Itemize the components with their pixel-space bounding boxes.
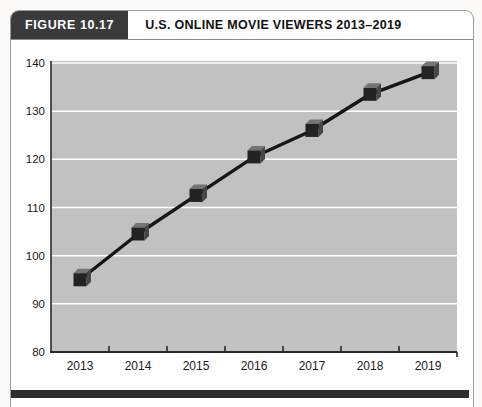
marker-cube-2016: [248, 150, 261, 163]
marker-cube-2014: [132, 227, 145, 240]
figure-title: U.S. ONLINE MOVIE VIEWERS 2013–2019: [128, 11, 401, 39]
x-tick-label-2019: 2019: [415, 359, 442, 373]
marker-cube-2018: [364, 88, 377, 101]
marker-cube-2019: [422, 66, 435, 79]
x-tick-label-2013: 2013: [67, 359, 94, 373]
y-tick-label-100: 100: [26, 250, 45, 262]
y-tick-label-120: 120: [26, 153, 45, 165]
y-tick-label-110: 110: [27, 202, 45, 214]
x-tick-label-2014: 2014: [125, 359, 152, 373]
x-tick-label-2017: 2017: [299, 359, 326, 373]
y-tick-label-90: 90: [32, 298, 45, 310]
x-tick-label-2018: 2018: [357, 359, 384, 373]
marker-cube-2015: [190, 189, 203, 202]
figure-bottom-rule: [11, 390, 469, 398]
figure-number-label: FIGURE 10.17: [11, 11, 128, 39]
plot-background: [51, 61, 457, 352]
figure-header: FIGURE 10.17 U.S. ONLINE MOVIE VIEWERS 2…: [11, 11, 473, 40]
figure-container: FIGURE 10.17 U.S. ONLINE MOVIE VIEWERS 2…: [10, 10, 474, 407]
x-tick-label-2015: 2015: [183, 359, 210, 373]
marker-cube-2017: [306, 124, 319, 137]
y-tick-label-140: 140: [26, 57, 45, 69]
x-tick-label-2016: 2016: [241, 359, 268, 373]
chart-area: 8090100110120130140201320142015201620172…: [11, 40, 475, 391]
y-tick-label-130: 130: [26, 105, 45, 117]
marker-cube-2013: [74, 273, 87, 286]
line-chart: 8090100110120130140201320142015201620172…: [11, 40, 475, 391]
y-tick-label-80: 80: [32, 346, 45, 358]
